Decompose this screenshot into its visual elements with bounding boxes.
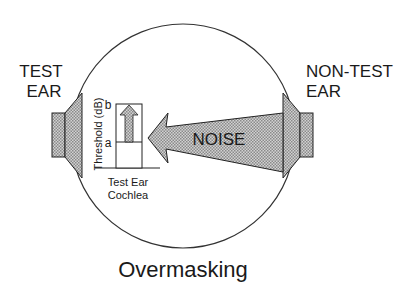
noise-label: NOISE	[193, 130, 246, 149]
overmasking-diagram: NOISE b a Threshold (dB) Test Ear Cochle…	[0, 0, 404, 287]
cochlea-caption-line1: Test Ear	[108, 176, 149, 188]
threshold-axis-label: Threshold (dB)	[92, 98, 104, 171]
nontest-ear-label-line2: EAR	[306, 82, 341, 101]
level-a-label: a	[105, 136, 112, 150]
diagram-title: Overmasking	[118, 257, 248, 282]
level-b-label: b	[105, 98, 112, 112]
test-ear-label-line1: TEST	[19, 62, 62, 81]
test-ear-label-line2: EAR	[27, 82, 62, 101]
nontest-ear-label-line1: NON-TEST	[306, 62, 393, 81]
cochlea-caption-line2: Cochlea	[108, 189, 149, 201]
nontest-ear-speaker-icon	[283, 93, 313, 178]
test-ear-speaker-icon	[52, 93, 82, 178]
